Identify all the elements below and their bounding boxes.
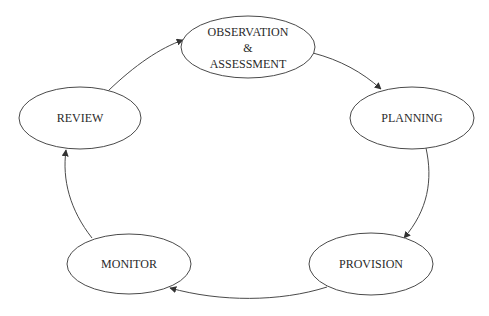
node-label: REVIEW <box>57 111 104 125</box>
node-label-line: & <box>243 41 253 55</box>
node-provision: PROVISION <box>309 233 433 295</box>
node-observation-assessment: OBSERVATION & ASSESSMENT <box>181 16 315 78</box>
node-planning: PLANNING <box>350 87 474 149</box>
node-label: PROVISION <box>339 257 403 271</box>
edge-planning-to-provision <box>404 148 429 238</box>
node-monitor: MONITOR <box>67 234 191 294</box>
edge-review-to-observation <box>108 40 183 91</box>
node-label-line: OBSERVATION <box>208 25 289 39</box>
node-label: MONITOR <box>101 257 157 271</box>
edge-provision-to-monitor <box>170 287 327 298</box>
node-review: REVIEW <box>19 87 141 149</box>
edge-monitor-to-review <box>65 150 92 238</box>
node-label: PLANNING <box>381 111 443 125</box>
diagram-svg: OBSERVATION & ASSESSMENT PLANNING PROVIS… <box>0 0 489 316</box>
edge-observation-to-planning <box>313 53 381 89</box>
node-label-line: ASSESSMENT <box>210 57 287 71</box>
cycle-diagram: OBSERVATION & ASSESSMENT PLANNING PROVIS… <box>0 0 489 316</box>
